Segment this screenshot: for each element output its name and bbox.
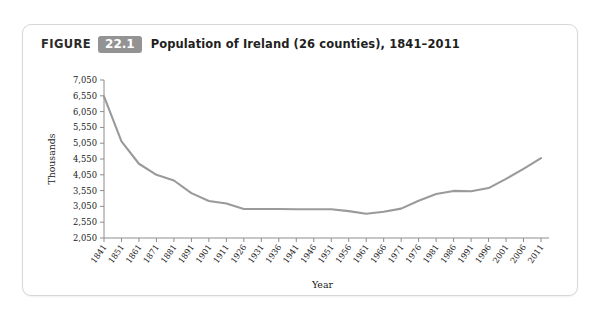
x-axis-tick-label: 2001: [491, 242, 511, 265]
x-axis-tick-label: 1851: [106, 242, 126, 265]
figure-card: FIGURE 22.1 Population of Ireland (26 co…: [22, 24, 578, 296]
y-axis-tick-label: 3,050: [73, 201, 97, 211]
x-axis-tick-label: 1946: [298, 242, 318, 265]
y-axis-tick-label: 5,550: [73, 122, 97, 132]
x-axis-tick-label: 1881: [158, 242, 178, 265]
y-axis-tick-label: 5,050: [73, 138, 97, 148]
x-axis-tick-label: 1941: [281, 242, 301, 265]
x-axis-tick-label: 1931: [246, 242, 266, 265]
x-axis-tick-label: 1901: [193, 242, 213, 265]
y-axis-tick-label: 4,050: [73, 170, 97, 180]
population-line-chart: 2,0502,5503,0503,5504,0504,5505,0505,550…: [23, 63, 579, 296]
x-axis-tick-label: 1861: [123, 242, 143, 265]
x-axis-tick-label: 1936: [263, 242, 283, 265]
figure-number-badge: 22.1: [98, 36, 142, 53]
y-axis-tick-label: 3,550: [73, 186, 97, 196]
x-axis-tick-label: 2011: [525, 242, 545, 265]
x-axis-tick-label: 1996: [473, 242, 493, 265]
x-axis-tick-label: 1991: [456, 242, 476, 265]
x-axis-title: Year: [311, 279, 334, 290]
x-axis-tick-label: 2006: [508, 242, 528, 265]
population-series-line: [104, 96, 541, 213]
x-axis-tick-label: 1961: [351, 242, 371, 265]
x-axis-tick-label: 1986: [438, 242, 458, 265]
y-axis-tick-label: 6,050: [73, 107, 97, 117]
y-axis-tick-label: 7,050: [73, 75, 97, 85]
x-axis-tick-label: 1976: [403, 242, 423, 265]
x-axis-tick-label: 1871: [141, 242, 161, 265]
x-axis-tick-label: 1956: [333, 242, 353, 265]
y-axis-tick-label: 2,050: [73, 233, 97, 243]
y-axis-tick-label: 6,550: [73, 91, 97, 101]
x-axis-tick-label: 1926: [228, 242, 248, 265]
x-axis-tick-label: 1951: [316, 242, 336, 265]
x-axis-tick-label: 1891: [176, 242, 196, 265]
figure-title: Population of Ireland (26 counties), 184…: [151, 37, 460, 51]
x-axis-tick-label: 1911: [211, 242, 231, 265]
y-axis-title: Thousands: [46, 133, 57, 184]
x-axis-tick-label: 1966: [368, 242, 388, 265]
y-axis-tick-label: 2,550: [73, 217, 97, 227]
x-axis-tick-label: 1971: [386, 242, 406, 265]
y-axis-tick-label: 4,550: [73, 154, 97, 164]
figure-header: FIGURE 22.1 Population of Ireland (26 co…: [23, 25, 577, 63]
x-axis-tick-label: 1841: [88, 242, 108, 265]
x-axis-tick-label: 1981: [421, 242, 441, 265]
figure-label-word: FIGURE: [41, 37, 91, 51]
chart-plot-area: 2,0502,5503,0503,5504,0504,5505,0505,550…: [23, 63, 577, 296]
